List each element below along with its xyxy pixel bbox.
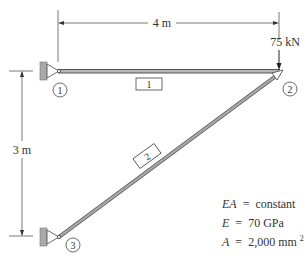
property-a: A = 2,000 mm 2 [221, 234, 304, 249]
material-properties: EA = constant E = 70 GPa A = 2,000 mm 2 [221, 197, 304, 249]
svg-text:2: 2 [288, 84, 293, 95]
arrowhead-up-icon [20, 71, 24, 77]
dimension-vertical: 3 m [9, 71, 33, 236]
svg-text:1: 1 [147, 79, 152, 90]
member-2 [59, 73, 280, 237]
load-75kn: 75 kN [270, 35, 300, 70]
pin-icon [57, 69, 60, 72]
member-label-1: 1 [136, 78, 162, 90]
dimension-label-horizontal: 4 m [153, 16, 172, 30]
arrow-down-icon [277, 63, 282, 70]
node-label-1: 1 [53, 83, 67, 97]
pin-icon [57, 235, 60, 238]
property-e: E = 70 GPa [221, 216, 284, 230]
node-label-2: 2 [283, 82, 297, 96]
property-ea: EA = constant [221, 197, 296, 211]
svg-text:3: 3 [71, 240, 76, 251]
arrowhead-down-icon [20, 230, 24, 236]
node-label-3: 3 [66, 238, 80, 252]
arrowhead-right-icon [273, 21, 279, 25]
wall-hatch-icon [40, 62, 47, 80]
svg-text:1: 1 [58, 85, 63, 96]
wall-hatch-icon [40, 228, 47, 246]
dimension-horizontal: 4 m [58, 10, 279, 62]
truss-diagram: 4 m 3 m 75 kN [0, 0, 305, 257]
dimension-label-vertical: 3 m [13, 143, 32, 157]
member-1 [58, 69, 280, 74]
pin-support-1 [40, 62, 61, 80]
pin-support-3 [40, 228, 61, 246]
load-label: 75 kN [270, 35, 300, 49]
arrowhead-left-icon [58, 21, 64, 25]
